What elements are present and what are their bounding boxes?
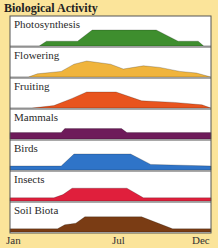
x-tick-dec: Dec xyxy=(192,234,210,246)
x-tick-jan: Jan xyxy=(6,234,21,246)
panel-label: Birds xyxy=(14,142,38,154)
panel-label: Fruiting xyxy=(14,80,50,92)
panel-label: Flowering xyxy=(14,49,60,61)
chart-panels: PhotosynthesisFloweringFruitingMammalsBi… xyxy=(0,0,218,248)
panel-label: Insects xyxy=(14,173,45,185)
panel-label: Photosynthesis xyxy=(14,18,80,30)
panel-label: Mammals xyxy=(14,111,58,123)
x-tick-jul: Jul xyxy=(112,234,125,246)
panel-label: Soil Biota xyxy=(14,204,58,216)
